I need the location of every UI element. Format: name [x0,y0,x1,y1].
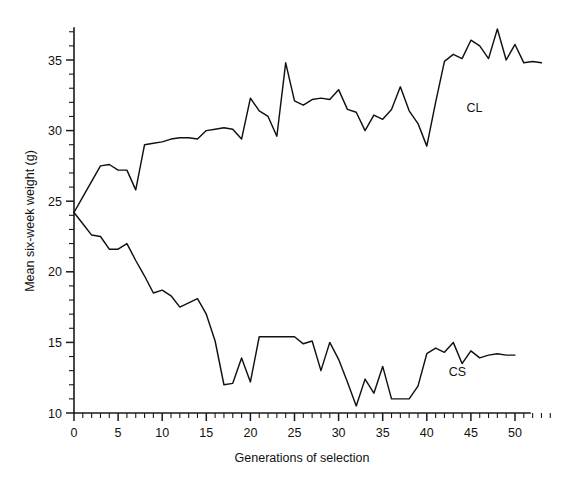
x-tick-label: 30 [332,426,346,440]
x-axis-ticks [74,413,550,421]
x-tick-label: 10 [155,426,169,440]
x-tick-label: 5 [115,426,122,440]
series-label-cs: CS [449,365,466,379]
x-tick-label: 50 [508,426,522,440]
x-tick-label: 45 [464,426,478,440]
y-axis-tick-labels: 101520253035 [48,54,62,421]
y-tick-label: 30 [48,124,62,138]
data-series-group [74,29,541,406]
y-axis-title: Mean six-week weight (g) [23,150,37,292]
series-label-cl: CL [466,101,482,115]
x-tick-label: 40 [420,426,434,440]
x-tick-label: 35 [376,426,390,440]
series-line-cl [74,29,541,213]
chart-figure: 101520253035 05101520253035404550 CL CS … [0,0,573,481]
y-tick-label: 25 [48,195,62,209]
x-tick-label: 15 [199,426,213,440]
y-tick-label: 35 [48,54,62,68]
y-tick-label: 15 [48,336,62,350]
x-tick-label: 20 [243,426,257,440]
x-tick-label: 25 [288,426,302,440]
y-axis-ticks [66,32,74,413]
x-axis-tick-labels: 05101520253035404550 [71,426,522,440]
y-tick-label: 10 [48,407,62,421]
x-axis-title: Generations of selection [235,451,370,465]
line-chart: 101520253035 05101520253035404550 CL CS … [0,0,573,481]
y-tick-label: 20 [48,265,62,279]
x-tick-label: 0 [71,426,78,440]
